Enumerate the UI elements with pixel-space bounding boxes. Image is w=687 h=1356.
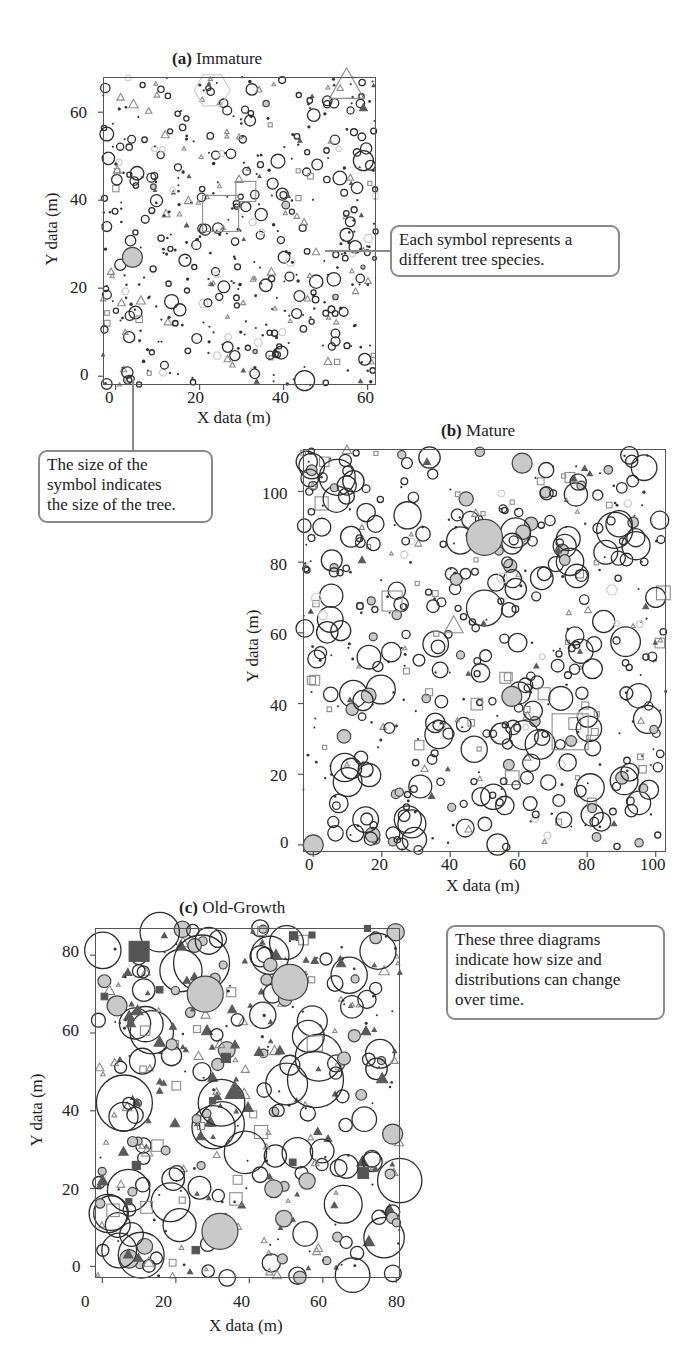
x-tick-c-60: 60 (310, 1292, 327, 1312)
x-tick-c-80: 80 (388, 1292, 405, 1312)
y-tick-a-60: 60 (70, 103, 87, 123)
time-callout-line-3: distributions can change (455, 970, 656, 990)
x-tick-a-40: 40 (272, 388, 289, 408)
y-tick-c-20: 20 (62, 1180, 79, 1200)
species-callout-connector (325, 250, 391, 252)
plot-frame-c (95, 928, 400, 1278)
species-callout: Each symbol represents a different tree … (390, 225, 620, 277)
time-callout: These three diagrams indicate how size a… (446, 925, 665, 1020)
y-axis-label-b: Y data (m) (243, 601, 263, 691)
panel-c-title: (c) Old-Growth (179, 898, 285, 918)
y-tick-a-20: 20 (70, 278, 87, 298)
panel-a-name: Immature (196, 49, 262, 68)
x-tick-c-0: 0 (81, 1292, 90, 1312)
panel-a-letter: (a) (172, 49, 192, 68)
y-tick-c-0: 0 (72, 1257, 81, 1277)
panel-a-title: (a) Immature (172, 49, 262, 69)
plot-frame-a (103, 77, 376, 385)
panel-c-name: Old-Growth (202, 898, 285, 917)
panel-c-letter: (c) (179, 898, 198, 917)
panel-b-letter: (b) (441, 421, 462, 440)
x-tick-a-60: 60 (357, 388, 374, 408)
panel-b-name: Mature (466, 421, 515, 440)
y-tick-a-0: 0 (80, 365, 89, 385)
y-tick-c-80: 80 (62, 942, 79, 962)
x-tick-b-100: 100 (640, 855, 666, 875)
y-tick-c-40: 40 (62, 1101, 79, 1121)
y-axis-label-c: Y data (m) (27, 1065, 47, 1155)
y-tick-b-20: 20 (270, 766, 287, 786)
x-tick-c-20: 20 (155, 1292, 172, 1312)
species-callout-line-2: different tree species. (399, 250, 611, 270)
x-tick-a-0: 0 (105, 388, 114, 408)
y-tick-b-80: 80 (270, 555, 287, 575)
x-tick-b-0: 0 (305, 855, 314, 875)
x-tick-b-40: 40 (441, 855, 458, 875)
x-tick-b-20: 20 (371, 855, 388, 875)
x-tick-c-40: 40 (233, 1292, 250, 1312)
plot-frame-b (303, 449, 666, 852)
y-tick-b-100: 100 (262, 484, 288, 504)
y-tick-b-0: 0 (280, 833, 289, 853)
x-axis-label-b: X data (m) (446, 876, 520, 896)
x-tick-b-60: 60 (509, 855, 526, 875)
y-tick-c-60: 60 (62, 1021, 79, 1041)
species-callout-line-1: Each symbol represents a (399, 230, 611, 250)
time-callout-line-1: These three diagrams (455, 930, 656, 950)
y-tick-a-40: 40 (70, 190, 87, 210)
size-callout-connector (132, 380, 134, 451)
size-callout-line-1: The size of the (47, 455, 204, 475)
x-axis-label-c: X data (m) (209, 1316, 283, 1336)
x-tick-b-80: 80 (578, 855, 595, 875)
x-tick-a-20: 20 (187, 388, 204, 408)
y-axis-label-a: Y data (m) (42, 184, 62, 274)
size-callout-line-2: symbol indicates (47, 475, 204, 495)
time-callout-line-4: over time. (455, 990, 656, 1010)
size-callout-line-3: the size of the tree. (47, 495, 204, 515)
x-axis-label-a: X data (m) (197, 408, 271, 428)
y-tick-b-60: 60 (270, 625, 287, 645)
size-callout: The size of the symbol indicates the siz… (38, 450, 213, 523)
time-callout-line-2: indicate how size and (455, 950, 656, 970)
panel-b-title: (b) Mature (441, 421, 515, 441)
y-tick-b-40: 40 (270, 696, 287, 716)
